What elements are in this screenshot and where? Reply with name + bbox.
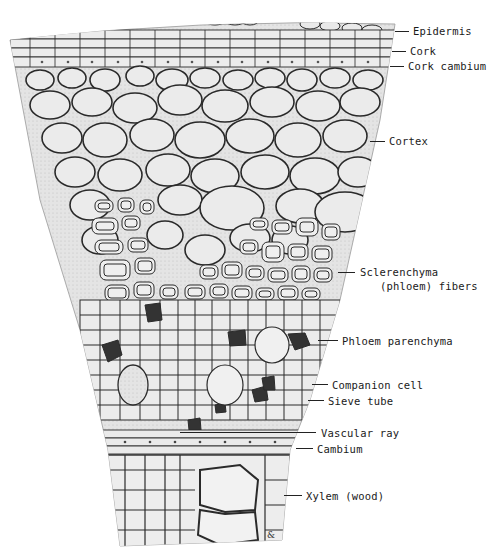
stem-wedge-drawing: & (0, 0, 500, 556)
label-xylem: Xylem (wood) (306, 490, 384, 502)
vessel-element (198, 510, 258, 545)
sclerenchyma-leader-line (338, 272, 355, 273)
sieve-tube-cell (255, 327, 289, 363)
label-phloem-parenchyma: Phloem parenchyma (342, 335, 453, 347)
sieve-plate-cell (118, 365, 148, 405)
stem-cross-section-diagram: & Epidermis Cork Cork cambium Cortex Scl… (0, 0, 500, 556)
phloem-parenchyma-leader-line (318, 340, 338, 341)
phloem-layer (80, 300, 340, 430)
label-vascular-ray: Vascular ray (321, 427, 399, 439)
epidermis-leader-line (395, 31, 409, 32)
vascular-ray-leader-line (180, 432, 316, 433)
label-cambium: Cambium (317, 443, 363, 455)
cork-layer (10, 30, 400, 67)
sieve-tube-leader-line (308, 400, 324, 401)
label-sclerenchyma: Sclerenchyma (360, 266, 438, 278)
label-sieve-tube: Sieve tube (328, 395, 393, 407)
companion-cell-leader-line (312, 384, 328, 385)
label-phloem-fibers: (phloem) fibers (380, 280, 478, 292)
label-cork: Cork (410, 45, 436, 57)
xylem-layer (105, 455, 290, 550)
companion-cell-large (207, 365, 243, 405)
vessel-element (200, 465, 258, 512)
label-cortex: Cortex (389, 135, 428, 147)
xylem-leader-line (284, 495, 302, 496)
cambium-layer (100, 430, 300, 454)
cork-leader-line (392, 51, 406, 52)
cambium-leader-line (296, 448, 313, 449)
label-cork-cambium: Cork cambium (408, 60, 486, 72)
label-epidermis: Epidermis (413, 25, 472, 37)
cork-cambium-leader-line (390, 66, 404, 67)
label-companion-cell: Companion cell (332, 379, 423, 391)
artist-signature: & (267, 530, 275, 540)
cortex-leader-line (370, 141, 385, 142)
